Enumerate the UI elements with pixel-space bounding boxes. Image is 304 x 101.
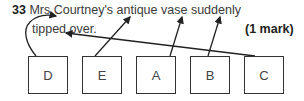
arrow-a [170, 17, 182, 56]
question-line-1: 33 Mrs Courtney's antique vase suddenly [12, 3, 241, 18]
question-text-line-1: Mrs Courtney's antique vase suddenly [29, 3, 241, 17]
arrow-e [95, 17, 130, 56]
box-c: C [244, 56, 284, 94]
question-text-line-2: tipped over. [32, 22, 97, 37]
box-b: B [190, 56, 230, 94]
question-number: 33 [12, 3, 26, 17]
marks-label: (1 mark) [245, 22, 294, 37]
arrow-b [208, 17, 220, 56]
box-d: D [28, 56, 68, 94]
box-a: A [136, 56, 176, 94]
box-e: E [82, 56, 122, 94]
